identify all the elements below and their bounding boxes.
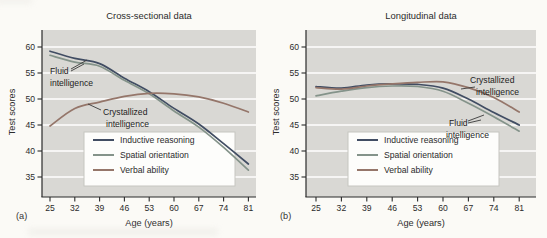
y-tick-label: 60 (289, 42, 299, 52)
y-tick-label: 45 (289, 120, 299, 130)
x-tick-label: 46 (120, 203, 130, 213)
chart-cross-sectional: Cross-sectional data 3540455055602532394… (0, 0, 264, 238)
x-tick-label: 81 (244, 203, 254, 213)
x-tick-label: 32 (70, 203, 80, 213)
legend-label: Verbal ability (120, 165, 169, 175)
y-axis-label: Test scores (7, 88, 17, 135)
x-axis-label: Age (years) (397, 218, 445, 228)
scan-artifact (28, 229, 218, 235)
annotation-text: intelligence (446, 130, 489, 140)
annotation-text: intelligence (50, 78, 93, 88)
y-tick-label: 40 (289, 146, 299, 156)
x-tick-label: 39 (95, 203, 105, 213)
y-tick-label: 55 (289, 68, 299, 78)
legend-label: Spatial orientation (384, 150, 453, 160)
x-tick-label: 60 (169, 203, 179, 213)
y-tick-label: 35 (25, 172, 35, 182)
annotation-text: Crystallized (103, 107, 148, 117)
x-tick-label: 46 (387, 203, 397, 213)
y-tick-label: 50 (289, 94, 299, 104)
x-tick-label: 53 (144, 203, 154, 213)
legend-label: Inductive reasoning (120, 135, 195, 145)
legend-label: Spatial orientation (120, 150, 189, 160)
annotation-text: Crystallized (470, 75, 515, 85)
y-tick-label: 45 (25, 120, 35, 130)
chart-longitudinal: Longitudinal data 3540455055602532394653… (264, 0, 547, 238)
chart-title: Cross-sectional data (106, 10, 192, 21)
chart-title: Longitudinal data (385, 10, 457, 21)
x-tick-label: 67 (194, 203, 204, 213)
y-tick-label: 55 (25, 68, 35, 78)
annotation-text: intelligence (106, 119, 149, 129)
scan-artifact (0, 0, 32, 3)
annotation-text: intelligence (476, 87, 519, 97)
figure: Cross-sectional data 3540455055602532394… (0, 0, 547, 238)
x-tick-label: 74 (489, 203, 499, 213)
x-tick-label: 60 (438, 203, 448, 213)
x-tick-label: 53 (413, 203, 423, 213)
annotation-text: Fluid (449, 118, 468, 128)
y-tick-label: 50 (25, 94, 35, 104)
legend-label: Verbal ability (384, 165, 433, 175)
y-tick-label: 35 (289, 172, 299, 182)
annotation-text: Fluid (50, 66, 69, 76)
x-tick-label: 39 (362, 203, 372, 213)
legend: Inductive reasoning Spatial orientation … (348, 132, 499, 186)
legend: Inductive reasoning Spatial orientation … (84, 132, 235, 186)
panel-label: (b) (280, 211, 291, 221)
x-tick-label: 67 (464, 203, 474, 213)
y-axis-label: Test scores (271, 88, 281, 135)
y-tick-label: 60 (25, 42, 35, 52)
x-axis-label: Age (years) (125, 218, 173, 228)
y-tick-label: 40 (25, 146, 35, 156)
x-tick-label: 81 (514, 203, 524, 213)
x-tick-label: 25 (311, 203, 321, 213)
x-tick-label: 74 (219, 203, 229, 213)
panel-label: (a) (16, 211, 27, 221)
x-tick-label: 25 (45, 203, 55, 213)
x-tick-label: 32 (337, 203, 347, 213)
